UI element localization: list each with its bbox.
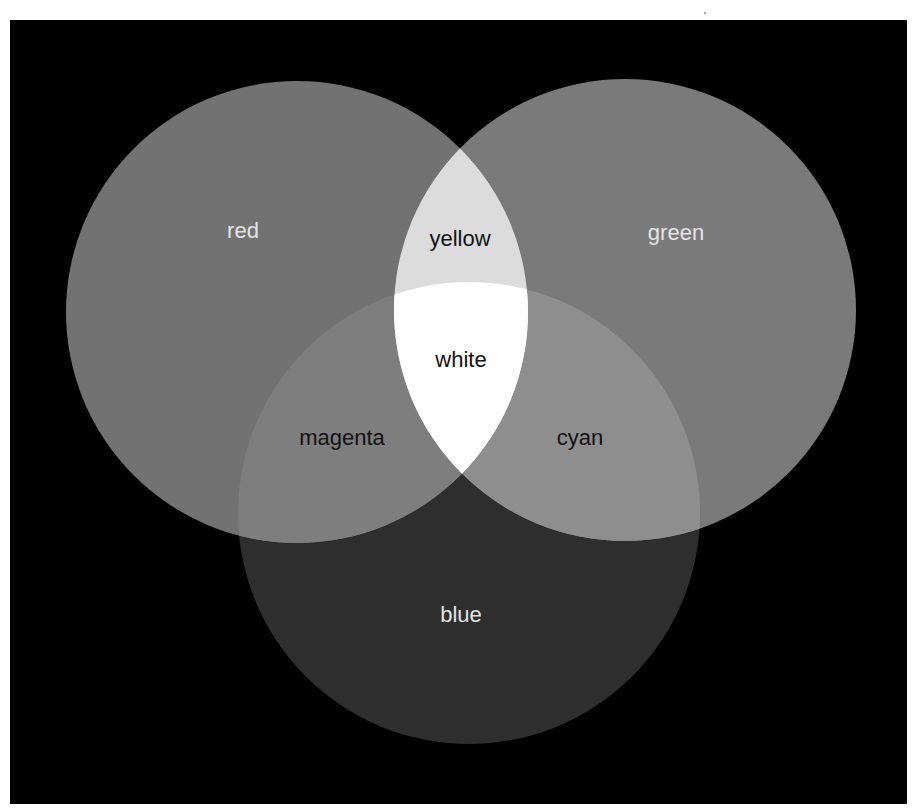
yellow-label: yellow — [429, 226, 490, 251]
green-label: green — [648, 220, 704, 245]
magenta-label: magenta — [299, 425, 385, 450]
scan-speck — [704, 12, 706, 14]
white-label: white — [434, 347, 486, 372]
venn-diagram-stage: red green blue yellow white magenta cyan — [0, 0, 917, 812]
color-venn-diagram: red green blue yellow white magenta cyan — [0, 0, 917, 812]
blue-label: blue — [440, 602, 482, 627]
red-label: red — [227, 218, 259, 243]
cyan-label: cyan — [557, 425, 603, 450]
